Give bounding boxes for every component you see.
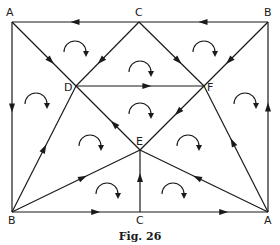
vertex-label-C_b: C	[136, 214, 144, 227]
edge-A_br-E	[140, 150, 268, 212]
arrowhead-icon	[142, 83, 151, 89]
clockwise-arrow-icon	[177, 135, 202, 151]
arrowhead-icon	[9, 104, 15, 113]
clockwise-arrow-icon	[162, 183, 187, 199]
vertex-label-A_br: A	[264, 214, 272, 227]
clockwise-arrow-icon	[234, 93, 259, 109]
clockwise-arrow-icon	[129, 61, 154, 77]
edges	[9, 19, 271, 215]
arrowhead-icon	[192, 173, 203, 182]
edge-F-E	[140, 86, 204, 150]
circulation-arrows	[25, 41, 259, 199]
arrowhead-icon	[219, 209, 228, 215]
edge-A_br-F	[204, 86, 268, 212]
arrowhead-icon	[71, 19, 80, 25]
vertex-label-F: F	[207, 81, 213, 94]
clockwise-arrow-icon	[193, 41, 218, 57]
edge-A_tl-D	[12, 22, 76, 86]
arrowhead-icon	[137, 173, 143, 182]
edge-E-D	[76, 86, 140, 150]
clockwise-arrow-icon	[25, 93, 50, 109]
vertex-label-D: D	[64, 81, 72, 94]
clockwise-arrow-icon	[79, 135, 104, 151]
figure-caption: Fig. 26	[119, 230, 162, 243]
vertex-label-E: E	[136, 135, 143, 148]
edge-B_bl-E	[12, 150, 140, 212]
graph-figure: ACBDFEBCA Fig. 26	[0, 0, 280, 245]
arrowhead-icon	[199, 19, 208, 25]
arrowhead-icon	[228, 137, 237, 148]
clockwise-arrow-icon	[129, 103, 154, 119]
vertex-labels: ACBDFEBCA	[6, 6, 272, 227]
vertex-label-B_tr: B	[264, 6, 272, 19]
vertex-label-C_t: C	[135, 6, 143, 19]
clockwise-arrow-icon	[96, 183, 121, 199]
arrowhead-icon	[40, 143, 49, 154]
vertex-label-B_bl: B	[8, 214, 16, 227]
arrowhead-icon	[91, 209, 100, 215]
clockwise-arrow-icon	[64, 41, 89, 57]
arrowhead-icon	[265, 103, 271, 112]
edge-C_t-F	[139, 22, 204, 86]
vertex-label-A_tl: A	[6, 6, 14, 19]
arrowhead-icon	[77, 173, 88, 182]
